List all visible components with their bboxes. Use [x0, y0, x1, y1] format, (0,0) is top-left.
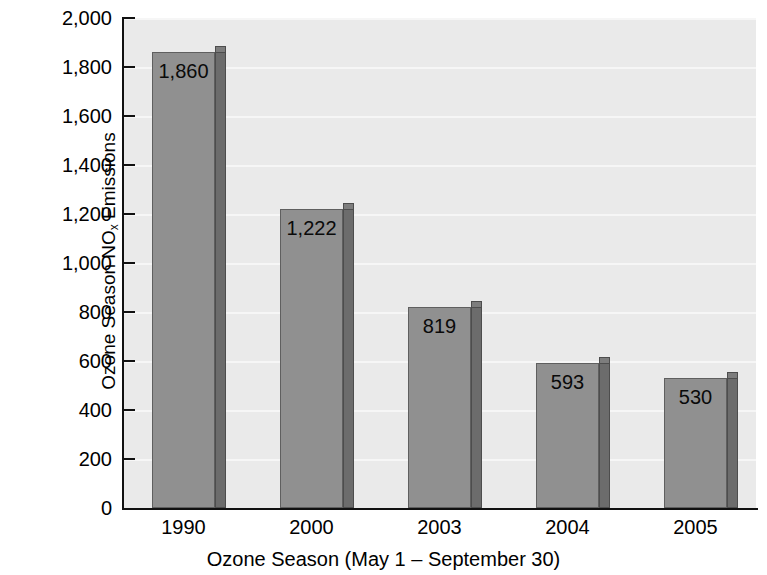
bar[interactable]: 1,222 — [280, 209, 343, 508]
y-axis-tick-label: 600 — [0, 351, 112, 371]
x-axis-tick-label: 2000 — [242, 516, 382, 538]
y-axis-tick — [124, 115, 135, 117]
bar-top-face — [471, 301, 482, 308]
bar-top-face — [727, 372, 738, 379]
y-axis-tick-label: 1,800 — [0, 57, 112, 77]
bar-side-face — [471, 307, 482, 508]
bar-side-face — [599, 363, 610, 508]
bar-top-face — [599, 357, 610, 364]
y-axis-tick — [124, 213, 135, 215]
bar-front-face — [408, 307, 471, 508]
bar-value-label: 530 — [664, 386, 727, 408]
bar[interactable]: 1,860 — [152, 52, 215, 508]
y-axis-tick-label: 200 — [0, 449, 112, 469]
bar-value-label: 819 — [408, 315, 471, 337]
y-axis-tick-label: 0 — [0, 498, 112, 518]
y-axis-tick-label: 1,600 — [0, 106, 112, 126]
nox-subscript: x — [107, 224, 121, 230]
bar-side-face — [215, 52, 226, 508]
bar-top-face — [215, 46, 226, 53]
y-axis-tick-label: 800 — [0, 302, 112, 322]
x-axis-tick-label: 2004 — [498, 516, 638, 538]
cropped-title-artifact: • • • • — [0, 0, 767, 5]
x-axis-tick-label: 2005 — [626, 516, 766, 538]
bar-value-label: 593 — [536, 371, 599, 393]
x-axis-tick-label: 1990 — [114, 516, 254, 538]
x-axis-tick-label: 2003 — [370, 516, 510, 538]
y-axis-tick — [124, 164, 135, 166]
cropped-title-text: • • • • — [365, 0, 401, 5]
bar[interactable]: 530 — [664, 378, 727, 508]
bar-side-face — [727, 378, 738, 508]
y-axis-tick-label: 2,000 — [0, 8, 112, 28]
bar-value-label: 1,860 — [152, 60, 215, 82]
y-axis-tick-label: 1,000 — [0, 253, 112, 273]
bar-value-label: 1,222 — [280, 217, 343, 239]
bar-top-face — [343, 203, 354, 210]
y-axis-tick — [124, 409, 135, 411]
bar[interactable]: 593 — [536, 363, 599, 508]
y-axis-tick — [124, 17, 135, 19]
y-axis-tick-label: 400 — [0, 400, 112, 420]
gridline — [124, 18, 756, 20]
y-axis-tick — [124, 262, 135, 264]
y-axis-tick — [124, 360, 135, 362]
bar-front-face — [152, 52, 215, 508]
y-axis-tick-label: 1,200 — [0, 204, 112, 224]
y-axis-tick — [124, 458, 135, 460]
bar-chart-figure: • • • • Ozone Season NOx Emissions (Thou… — [0, 0, 767, 575]
x-axis-line — [122, 508, 758, 510]
y-axis-tick-label: 1,400 — [0, 155, 112, 175]
y-axis-tick — [124, 311, 135, 313]
y-axis-tick — [124, 66, 135, 68]
bar-side-face — [343, 209, 354, 508]
bar-front-face — [280, 209, 343, 508]
x-axis-title: Ozone Season (May 1 – September 30) — [0, 548, 767, 571]
bar[interactable]: 819 — [408, 307, 471, 508]
